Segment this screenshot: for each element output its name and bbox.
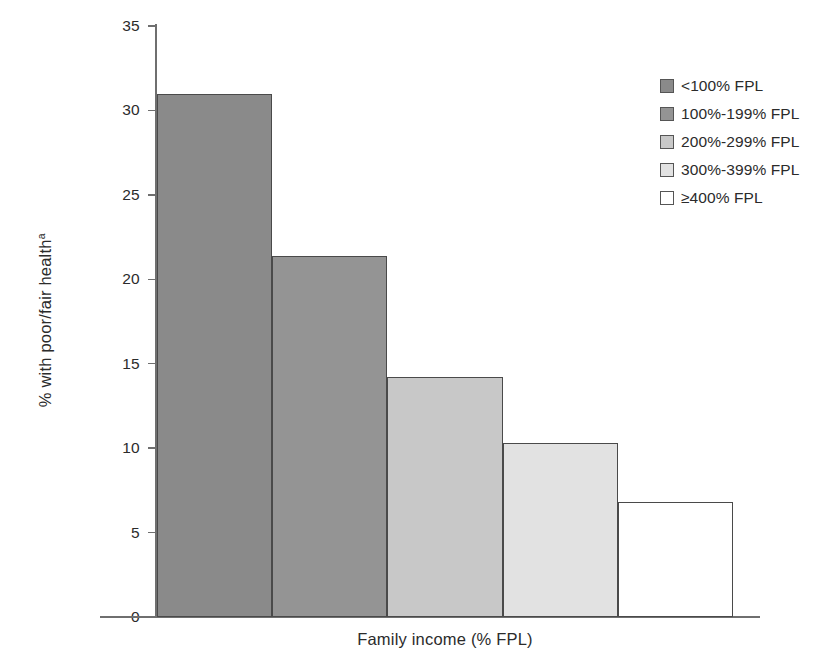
y-axis-tick-mark: [148, 279, 155, 280]
legend-item-label: ≥400% FPL: [681, 189, 763, 207]
legend-item-label: <100% FPL: [681, 77, 763, 95]
legend-item: <100% FPL: [660, 72, 827, 100]
legend-swatch-icon: [660, 191, 674, 205]
legend-swatch-icon: [660, 135, 674, 149]
y-axis-tick-mark: [148, 447, 155, 448]
y-axis-title-text: % with poor/fair health: [36, 239, 54, 407]
y-axis-tick-mark: [148, 532, 155, 533]
legend-item: 200%-299% FPL: [660, 128, 827, 156]
legend: <100% FPL100%-199% FPL200%-299% FPL300%-…: [660, 72, 827, 212]
legend-item-label: 100%-199% FPL: [681, 105, 799, 123]
y-axis-tick-mark: [148, 363, 155, 364]
legend-item: ≥400% FPL: [660, 184, 827, 212]
y-axis-tick-mark: [148, 194, 155, 195]
y-axis-tick-mark: [148, 25, 155, 26]
x-axis-title: Family income (% FPL): [157, 630, 733, 649]
legend-item-label: 200%-299% FPL: [681, 133, 799, 151]
bar: [157, 94, 272, 617]
legend-swatch-icon: [660, 107, 674, 121]
legend-item: 100%-199% FPL: [660, 100, 827, 128]
bar: [503, 443, 618, 617]
bar: [272, 256, 387, 617]
bar: [618, 502, 733, 617]
y-axis-tick-mark: [148, 110, 155, 111]
legend-swatch-icon: [660, 163, 674, 177]
bar: [387, 377, 502, 617]
legend-swatch-icon: [660, 79, 674, 93]
bar-chart-figure: 35302520151050 Family income (% FPL) % w…: [0, 0, 827, 662]
legend-item-label: 300%-399% FPL: [681, 161, 799, 179]
y-axis-title: % with poor/fair healtha: [35, 20, 56, 620]
bar-series: [157, 0, 733, 617]
legend-item: 300%-399% FPL: [660, 156, 827, 184]
y-axis-title-footnote: a: [35, 233, 47, 239]
